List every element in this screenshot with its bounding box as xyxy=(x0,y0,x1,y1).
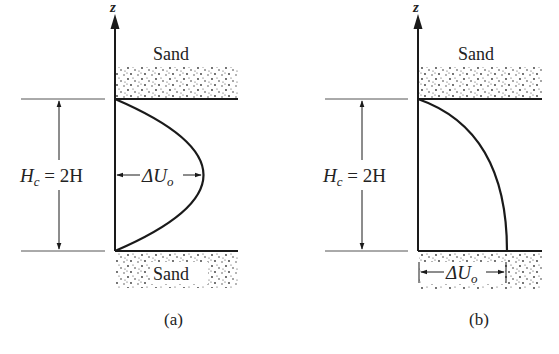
diagram-canvas: z Sand Sand Hc = 2H ΔUo (a) z xyxy=(0,0,559,354)
panel-b: z Sand Hc = 2H ΔUo (b) xyxy=(322,0,542,329)
thickness-label: Hc = 2H xyxy=(19,165,83,189)
top-sand-layer xyxy=(116,67,238,98)
top-sand-label: Sand xyxy=(153,44,189,64)
top-sand-label: Sand xyxy=(458,44,494,64)
z-axis-arrow-icon xyxy=(111,14,120,29)
z-axis-arrow-icon xyxy=(414,14,423,29)
delta-u-label: ΔUo xyxy=(141,165,174,189)
thickness-label: Hc = 2H xyxy=(322,165,386,189)
z-axis-label: z xyxy=(412,0,419,15)
top-sand-layer xyxy=(419,67,542,98)
pore-pressure-profile-half-parabolic xyxy=(418,99,507,251)
z-axis-label: z xyxy=(109,0,116,15)
caption-b: (b) xyxy=(469,310,489,329)
bottom-sand-label: Sand xyxy=(153,264,189,284)
panel-a: z Sand Sand Hc = 2H ΔUo (a) xyxy=(19,0,238,329)
caption-a: (a) xyxy=(164,310,183,329)
